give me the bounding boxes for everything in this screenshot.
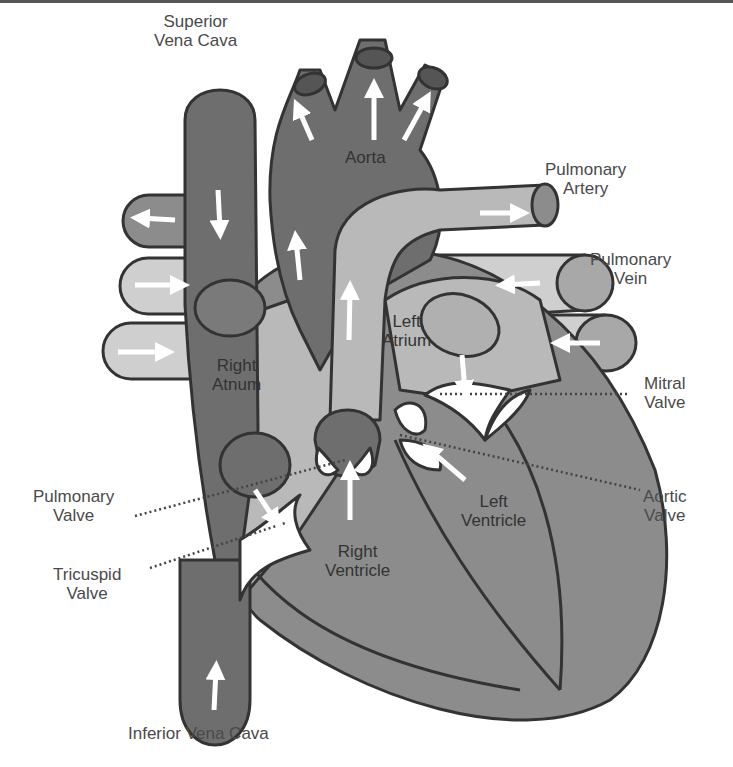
- label-left-atrium: Left Atrium: [382, 312, 431, 350]
- label-pulmonary-artery: Pulmonary Artery: [545, 160, 626, 198]
- label-inferior-vena-cava: Inferior Vena Cava: [128, 724, 269, 743]
- heart-diagram: [0, 0, 733, 767]
- label-right-atrium: Right Atnum: [212, 356, 261, 394]
- label-right-ventricle: Right Ventricle: [325, 542, 390, 580]
- label-tricuspid-valve: Tricuspid Valve: [53, 565, 121, 603]
- label-aortic-valve: Aortic Valve: [643, 487, 686, 525]
- label-aorta: Aorta: [345, 148, 386, 167]
- label-left-ventricle: Left Ventricle: [461, 492, 526, 530]
- label-pulmonary-valve: Pulmonary Valve: [33, 487, 114, 525]
- label-mitral-valve: Mitral Valve: [644, 374, 686, 412]
- label-superior-vena-cava: Superior Vena Cava: [154, 12, 237, 50]
- label-pulmonary-vein: Pulmonary Vein: [590, 250, 671, 288]
